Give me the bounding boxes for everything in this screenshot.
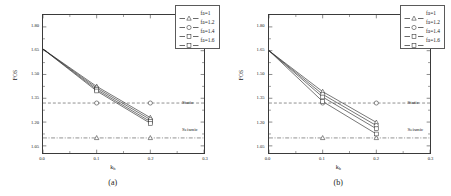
y-tick-label: 1.35: [14, 95, 39, 100]
legend-sample-icon: [179, 41, 199, 50]
x-tick-label: 0.2: [364, 156, 388, 161]
legend-label: fa=1.2: [201, 18, 215, 27]
y-tick-label: 1.50: [14, 71, 39, 76]
y-tick-label: 1.80: [240, 23, 265, 28]
x-tick-label: 0.2: [139, 156, 163, 161]
legend-item: fa=1: [179, 9, 215, 18]
legend-swatch: [404, 36, 424, 45]
legend-item: fa=1: [404, 9, 440, 18]
x-tick-label: 0.0: [30, 156, 54, 161]
series-line-0: [269, 51, 376, 123]
x-axis-label-sub-b: h: [339, 166, 341, 171]
reference-marker-static: [148, 101, 152, 105]
y-tick-label: 1.05: [14, 144, 39, 149]
legend-item: fa=1.6: [404, 36, 440, 45]
reference-label-seismic: Seismic: [182, 127, 198, 132]
y-tick-label: 1.65: [14, 47, 39, 52]
x-tick-label: 0.1: [310, 156, 334, 161]
panel-b: FOS kh (b) 1.051.201.351.501.651.800.00.…: [226, 0, 451, 196]
legend-item: fa=1.6: [179, 36, 215, 45]
legend-label: fa=1.4: [201, 27, 215, 36]
legend-marker-3: [412, 44, 416, 48]
legend-item: fa=1.2: [404, 18, 440, 27]
legend-swatch: [179, 27, 199, 36]
series-marker-3-1: [320, 100, 324, 104]
legend: fa=1fa=1.2fa=1.4fa=1.6: [400, 5, 445, 49]
series-marker-2-1: [320, 95, 324, 99]
y-tick-label: 1.20: [14, 120, 39, 125]
series-line-1: [269, 51, 376, 126]
reference-marker-seismic: [94, 136, 98, 140]
reference-marker-seismic: [374, 136, 378, 140]
legend-label: fa=1.4: [426, 27, 440, 36]
legend-label: fa=1.6: [426, 36, 440, 45]
x-tick-label: 0.3: [419, 156, 443, 161]
series-line-0: [43, 49, 150, 118]
x-axis-label-b: kh: [226, 164, 451, 171]
x-tick-label: 0.3: [193, 156, 217, 161]
reference-marker-seismic: [148, 136, 152, 140]
series-marker-3-1: [95, 89, 99, 93]
series-marker-3-2: [148, 121, 152, 125]
legend-swatch: [179, 36, 199, 45]
legend-item: fa=1.4: [179, 27, 215, 36]
y-tick-label: 1.65: [240, 47, 265, 52]
x-tick-label: 0.1: [84, 156, 108, 161]
reference-label-static: Static: [182, 100, 193, 105]
legend-label: fa=1: [201, 9, 211, 18]
series-marker-3-2: [374, 132, 378, 136]
legend-label: fa=1.2: [426, 18, 440, 27]
legend-swatch: [404, 27, 424, 36]
x-axis-label-a: kh: [0, 164, 226, 171]
legend-swatch: [179, 18, 199, 27]
legend-swatch: [404, 9, 424, 18]
legend-item: fa=1.4: [404, 27, 440, 36]
y-tick-label: 1.05: [240, 144, 265, 149]
y-tick-label: 1.50: [240, 71, 265, 76]
reference-label-seismic: Seismic: [408, 127, 424, 132]
legend-label: fa=1: [426, 9, 436, 18]
panel-caption-a: (a): [0, 178, 226, 187]
legend-sample-icon: [404, 41, 424, 50]
legend-item: fa=1.2: [179, 18, 215, 27]
series-marker-2-2: [374, 127, 378, 131]
legend-marker-3: [187, 44, 191, 48]
reference-label-static: Static: [408, 100, 419, 105]
y-tick-label: 1.35: [240, 95, 265, 100]
y-tick-label: 1.20: [240, 120, 265, 125]
panel-caption-b: (b): [226, 178, 451, 187]
reference-marker-static: [374, 101, 378, 105]
legend-label: fa=1.6: [201, 36, 215, 45]
figure-container: FOS kh (a) 1.051.201.351.501.651.800.00.…: [0, 0, 451, 196]
x-tick-label: 0.0: [256, 156, 280, 161]
legend-swatch: [179, 9, 199, 18]
legend-swatch: [404, 18, 424, 27]
reference-marker-static: [95, 101, 99, 105]
legend: fa=1fa=1.2fa=1.4fa=1.6: [175, 5, 220, 49]
x-axis-label-sub-a: h: [113, 166, 115, 171]
y-tick-label: 1.80: [14, 23, 39, 28]
reference-marker-seismic: [320, 136, 324, 140]
panel-a: FOS kh (a) 1.051.201.351.501.651.800.00.…: [0, 0, 226, 196]
